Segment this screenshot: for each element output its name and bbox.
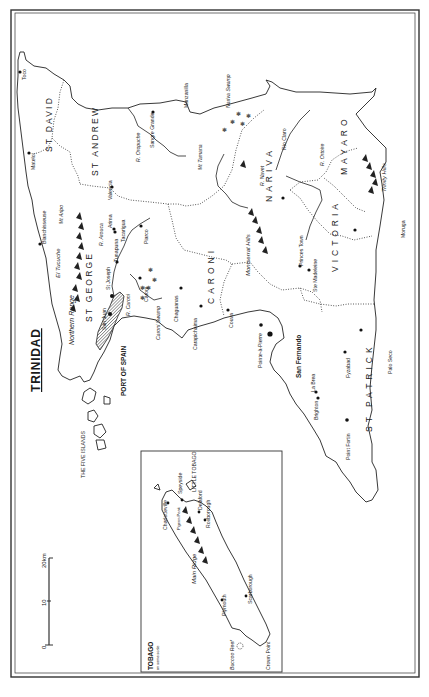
inset-plymouth: Plymouth (221, 594, 227, 616)
inset-little-tobago: LITTLE TOBAGO (191, 452, 197, 492)
label-pointe-a-pierre: Pointe-à-Pierre (257, 333, 263, 368)
label-blanchisseuse: Blanchisseuse (41, 210, 47, 244)
inset-subtitle: on same scale (156, 646, 160, 670)
inset-charlotteville: Charlotteville (162, 500, 168, 530)
label-r-arouca: R. Arouca (98, 223, 104, 246)
inset-buccoo-reef: Buccoo Reef (229, 640, 235, 670)
region-mayaro: MAYARO (339, 115, 349, 175)
label-five-islands: THE FIVE ISLANDS (80, 430, 86, 478)
region-caroni: CARONI (206, 247, 216, 304)
label-northern-range: Northern Range (68, 295, 76, 345)
label-valencia: Valencia (107, 180, 113, 200)
label-san-juan: San Juan (101, 308, 107, 330)
svg-text:✱: ✱ (222, 126, 227, 133)
scale-tick-20km: 20km (41, 553, 47, 568)
region-st-david: ST DAVID (44, 96, 54, 152)
inset-scarborough: Scarborough (247, 574, 253, 604)
label-couva: Couva (228, 313, 234, 328)
label-piarco: Piarco (143, 229, 149, 244)
inset-crown-point: Crown Point (265, 641, 271, 670)
label-manzanilla: Manzanilla (183, 83, 189, 108)
label-st-joseph: St Joseph (105, 267, 111, 290)
label-san-fernando: San Fernando (295, 335, 302, 378)
tobago-inset: TOBAGO on same scale LITTLE TOBAGO Speys… (141, 451, 282, 672)
scale-tick-0: 0 (41, 645, 47, 649)
label-r-navet: R. Navet (259, 165, 265, 186)
label-r-caroni: R. Caroni (125, 293, 131, 316)
label-toco: Toco (21, 69, 27, 80)
map-title: TRINIDAD (29, 328, 43, 392)
scale-tick-10: 10 (41, 599, 47, 606)
inset-pigeon-peak: Pigeon Peak (176, 507, 181, 530)
label-mt-aripo: Mt Aripo (58, 205, 64, 224)
label-fyzabad: Fyzabad (345, 358, 351, 378)
region-nariva: NARIVA (264, 147, 274, 202)
inset-title: TOBAGO (147, 642, 154, 670)
label-chaguanas: Chaguanas (173, 295, 179, 322)
label-r-oropuche: R. Oropuche (135, 132, 141, 162)
label-nariva-swamp: Nariva Swamp (225, 74, 231, 108)
label-tacarigua: Tacarigua (120, 219, 126, 242)
label-la-brea: La Brea (310, 374, 316, 392)
trinidad-island (17, 52, 386, 502)
label-caroni-swamp: Caroni Swamp (155, 306, 161, 340)
label-mt-tamana: Mt Tamana (197, 144, 203, 170)
label-matelot: Matelot (30, 152, 36, 170)
label-caroni: Caroni (143, 287, 149, 302)
label-carapichaima: Carapichaima (192, 318, 198, 350)
inset-roxborough: Roxborough (205, 500, 211, 528)
label-el-tucuche: El Tucuche (55, 248, 61, 278)
label-princes-town: Princes Town (298, 235, 304, 266)
label-r-ortoire: R. Ortoire (319, 143, 325, 166)
label-trinity-hills: Trinity Hills (381, 163, 387, 192)
label-montserrat-hills: Montserrat Hills (245, 234, 251, 276)
label-moruga: Moruga (400, 220, 406, 238)
inset-main-ridge: Main Ridge (191, 553, 197, 584)
label-palo-seco: Palo Seco (387, 350, 393, 374)
svg-text:✱: ✱ (246, 112, 251, 119)
inset-speyside: Speyside (177, 473, 183, 494)
region-st-andrew: ST ANDREW (90, 106, 100, 176)
label-ste-madeleine: Ste Madeleine (312, 259, 318, 292)
svg-text:✱: ✱ (240, 120, 245, 127)
label-point-fortin: Point Fortin (345, 433, 351, 460)
label-brighton: Brighton (313, 401, 319, 420)
svg-text:✱: ✱ (236, 110, 241, 117)
trinidad-map: ✱✱ ✱✱ ✱ ✱✱ ✱✱ ✱ TRINIDAD ST DAVID ST AND… (0, 0, 429, 697)
svg-text:✱: ✱ (152, 276, 157, 283)
inset-delaford: Delaford (197, 490, 203, 510)
svg-text:✱: ✱ (230, 118, 235, 125)
svg-text:✱: ✱ (148, 266, 153, 273)
region-victoria: VICTORIA (330, 200, 340, 272)
label-tunapuna: Tunapuna (113, 239, 119, 262)
label-sangre-grande: Sangre Grande (149, 112, 155, 148)
label-arima: Arima (107, 214, 113, 228)
label-rio-claro: Rio Claro (281, 128, 287, 150)
region-st-george: ST GEORGE (84, 252, 94, 322)
region-st-patrick: ST PATRICK (364, 343, 374, 432)
scale-bar: 0 10 20km (41, 553, 53, 649)
label-port-of-spain: PORT OF SPAIN (120, 346, 127, 396)
